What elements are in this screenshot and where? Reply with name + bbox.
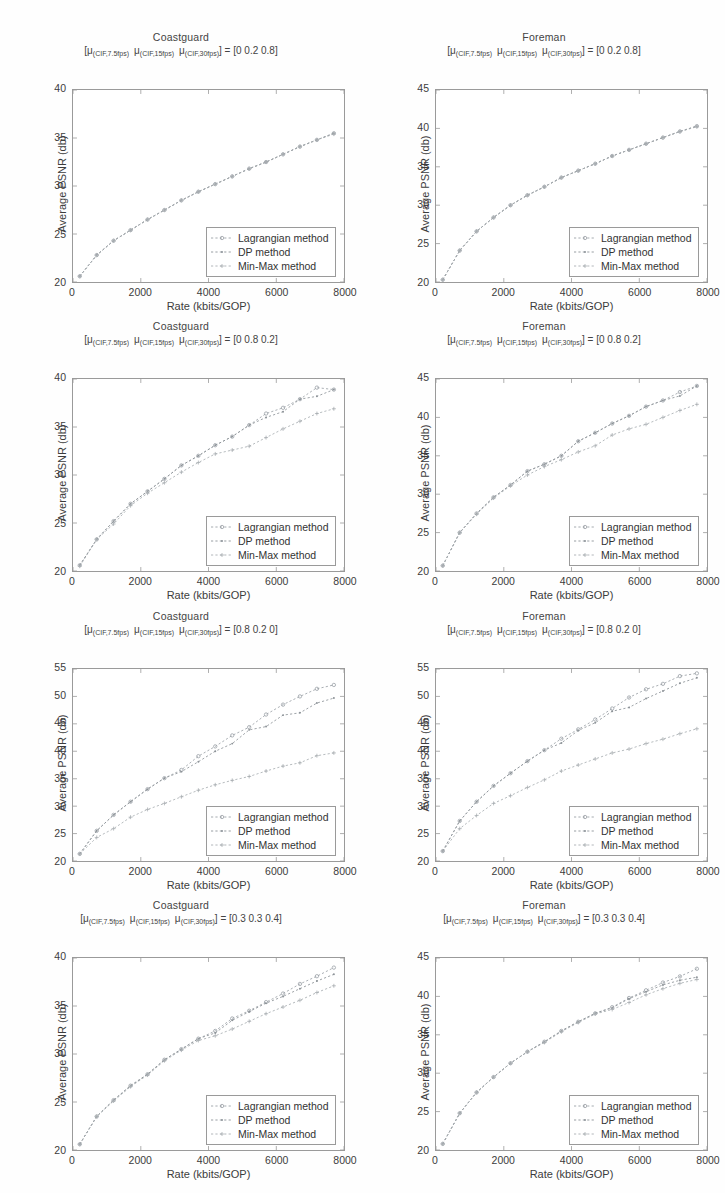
chart-legend: Lagrangian methodDP methodMin-Max method <box>569 806 699 856</box>
legend-item: Min-Max method <box>574 259 692 273</box>
legend-label: Lagrangian method <box>238 521 329 533</box>
plot-wrapper: 202530354045505502000400060008000Rate (k… <box>0 610 362 908</box>
chart-legend: Lagrangian methodDP methodMin-Max method <box>206 516 336 566</box>
x-axis-tick-label: 4000 <box>184 575 234 587</box>
legend-label: Lagrangian method <box>238 811 329 823</box>
x-axis-tick-label: 2000 <box>478 575 528 587</box>
y-axis-label: Average PSNR (db) <box>419 683 431 843</box>
legend-marker-circle-icon <box>211 1101 233 1111</box>
legend-label: Min-Max method <box>601 1128 679 1140</box>
legend-label: Min-Max method <box>238 260 316 272</box>
legend-label: DP method <box>238 1114 290 1126</box>
legend-marker-circle-icon <box>574 233 596 243</box>
chart-panel-2: Coastguard[μ(CIF,7.5fps)μ(CIF,15fps)μ(CI… <box>0 320 362 618</box>
x-axis-label: Rate (kbits/GOP) <box>72 589 345 601</box>
x-axis-label: Rate (kbits/GOP) <box>435 1168 708 1180</box>
legend-marker-plus-icon <box>574 550 596 560</box>
plot-wrapper: 20253035404502000400060008000Rate (kbits… <box>363 899 725 1193</box>
y-axis-tick-label: 45 <box>385 950 429 962</box>
x-axis-tick-label: 4000 <box>547 1154 597 1166</box>
legend-label: Min-Max method <box>601 260 679 272</box>
legend-item: Lagrangian method <box>211 231 329 245</box>
legend-item: Lagrangian method <box>211 1099 329 1113</box>
chart-panel-5: Foreman[μ(CIF,7.5fps)μ(CIF,15fps)μ(CIF,3… <box>363 610 725 908</box>
plot-wrapper: 20253035404502000400060008000Rate (kbits… <box>363 320 725 618</box>
chart-legend: Lagrangian methodDP methodMin-Max method <box>206 227 336 277</box>
y-axis-tick-label: 40 <box>22 82 66 94</box>
legend-label: DP method <box>601 535 653 547</box>
legend-item: DP method <box>574 1113 692 1127</box>
plot-wrapper: 20253035404502000400060008000Rate (kbits… <box>363 31 725 329</box>
plot-wrapper: 202530354002000400060008000Rate (kbits/G… <box>0 899 362 1193</box>
y-axis-label: Average PSNR (db) <box>56 972 68 1132</box>
legend-label: DP method <box>238 825 290 837</box>
legend-label: Lagrangian method <box>601 1100 692 1112</box>
x-axis-tick-label: 2000 <box>115 1154 165 1166</box>
x-axis-tick-label: 4000 <box>547 865 597 877</box>
y-axis-tick-label: 40 <box>22 371 66 383</box>
legend-item: Lagrangian method <box>574 231 692 245</box>
legend-item: Min-Max method <box>211 548 329 562</box>
legend-marker-plus-icon <box>211 261 233 271</box>
legend-marker-plus-icon <box>574 1129 596 1139</box>
legend-label: Min-Max method <box>238 839 316 851</box>
x-axis-tick-label: 4000 <box>184 1154 234 1166</box>
x-axis-label: Rate (kbits/GOP) <box>72 879 345 891</box>
legend-label: DP method <box>238 246 290 258</box>
legend-marker-dot-icon <box>574 826 596 836</box>
x-axis-tick-label: 2000 <box>478 1154 528 1166</box>
x-axis-tick-label: 6000 <box>615 286 665 298</box>
legend-item: Min-Max method <box>211 838 329 852</box>
legend-item: DP method <box>574 245 692 259</box>
y-axis-label: Average PSNR (db) <box>419 393 431 553</box>
y-axis-label: Average PSNR (db) <box>56 393 68 553</box>
legend-marker-circle-icon <box>211 233 233 243</box>
x-axis-tick-label: 0 <box>410 1154 460 1166</box>
legend-item: Min-Max method <box>574 1127 692 1141</box>
x-axis-tick-label: 2000 <box>115 575 165 587</box>
legend-marker-dot-icon <box>574 536 596 546</box>
chart-panel-4: Coastguard[μ(CIF,7.5fps)μ(CIF,15fps)μ(CI… <box>0 610 362 908</box>
legend-label: Min-Max method <box>601 549 679 561</box>
y-axis-tick-label: 40 <box>22 950 66 962</box>
legend-marker-circle-icon <box>211 522 233 532</box>
x-axis-tick-label: 8000 <box>683 865 725 877</box>
plot-wrapper: 202530354002000400060008000Rate (kbits/G… <box>0 31 362 329</box>
legend-item: Lagrangian method <box>574 520 692 534</box>
legend-item: Lagrangian method <box>211 520 329 534</box>
legend-marker-circle-icon <box>574 522 596 532</box>
legend-label: DP method <box>601 246 653 258</box>
legend-item: DP method <box>211 245 329 259</box>
legend-label: Lagrangian method <box>601 232 692 244</box>
legend-label: Min-Max method <box>601 839 679 851</box>
chart-legend: Lagrangian methodDP methodMin-Max method <box>206 806 336 856</box>
x-axis-tick-label: 0 <box>410 575 460 587</box>
y-axis-tick-label: 45 <box>385 82 429 94</box>
x-axis-tick-label: 6000 <box>252 1154 302 1166</box>
x-axis-tick-label: 0 <box>47 286 97 298</box>
legend-marker-dot-icon <box>211 1115 233 1125</box>
chart-legend: Lagrangian methodDP methodMin-Max method <box>569 516 699 566</box>
legend-label: Lagrangian method <box>601 811 692 823</box>
legend-item: Min-Max method <box>211 259 329 273</box>
legend-label: Lagrangian method <box>601 521 692 533</box>
y-axis-tick-label: 55 <box>385 661 429 673</box>
x-axis-tick-label: 8000 <box>683 286 725 298</box>
x-axis-tick-label: 4000 <box>184 865 234 877</box>
x-axis-tick-label: 2000 <box>478 286 528 298</box>
y-axis-tick-label: 55 <box>22 661 66 673</box>
legend-marker-plus-icon <box>211 1129 233 1139</box>
legend-item: Lagrangian method <box>211 810 329 824</box>
legend-marker-plus-icon <box>574 261 596 271</box>
legend-label: Min-Max method <box>238 1128 316 1140</box>
legend-marker-circle-icon <box>211 812 233 822</box>
x-axis-tick-label: 6000 <box>615 865 665 877</box>
plot-wrapper: 202530354045505502000400060008000Rate (k… <box>363 610 725 908</box>
x-axis-tick-label: 0 <box>47 575 97 587</box>
legend-label: Lagrangian method <box>238 232 329 244</box>
legend-item: Lagrangian method <box>574 810 692 824</box>
legend-label: Lagrangian method <box>238 1100 329 1112</box>
x-axis-tick-label: 6000 <box>252 575 302 587</box>
x-axis-tick-label: 2000 <box>115 865 165 877</box>
legend-marker-plus-icon <box>211 840 233 850</box>
